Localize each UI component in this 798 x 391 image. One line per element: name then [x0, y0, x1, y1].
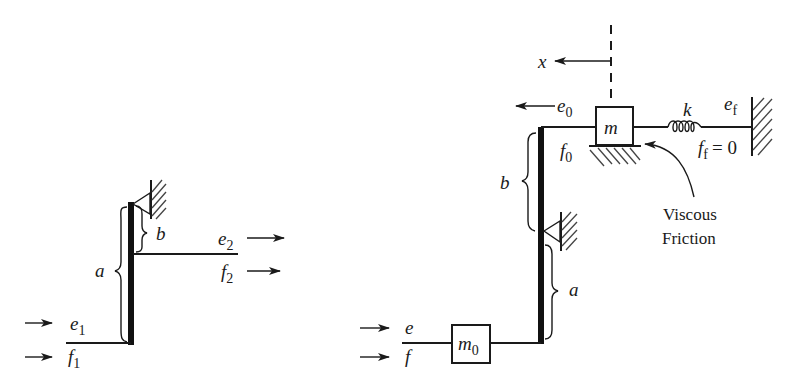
label-m: m [604, 117, 618, 138]
label-f: f [405, 346, 413, 367]
label-a: a [95, 260, 105, 281]
label-e0: e0 [557, 95, 572, 120]
label-e1: e1 [70, 313, 85, 338]
brace-b-icon [136, 206, 147, 252]
ground-hatch-icon [590, 148, 640, 166]
right-lever-diagram: x e0 m [360, 25, 772, 367]
label-ff: ff= 0 [698, 137, 737, 162]
brace-b-icon [522, 133, 536, 231]
label-e2: e2 [218, 228, 233, 253]
label-x: x [537, 51, 547, 72]
label-viscous: Viscous [663, 205, 717, 224]
friction-pointer-arrow-icon [645, 144, 694, 197]
label-b: b [156, 223, 166, 244]
label-ef: ef [724, 93, 737, 118]
brace-a-icon [545, 245, 558, 339]
pivot-icon [544, 221, 560, 242]
diagram-canvas: e1 f1 e2 f2 a b x e0 m [0, 0, 798, 391]
wall-hatch-icon [152, 180, 166, 219]
brace-a-icon [115, 207, 127, 342]
label-f1: f1 [68, 346, 80, 371]
label-f2: f2 [221, 261, 233, 286]
left-lever-diagram: e1 f1 e2 f2 a b [25, 180, 284, 371]
label-k: k [683, 99, 692, 120]
label-b: b [500, 172, 510, 193]
spring-k-icon [668, 121, 701, 132]
label-friction: Friction [662, 229, 716, 248]
label-m0: m0 [458, 333, 479, 358]
label-e: e [405, 317, 413, 338]
wall-hatch-icon [562, 212, 577, 250]
label-a: a [569, 279, 579, 300]
wall-hatch-icon [753, 98, 772, 155]
label-f0: f0 [560, 140, 572, 165]
